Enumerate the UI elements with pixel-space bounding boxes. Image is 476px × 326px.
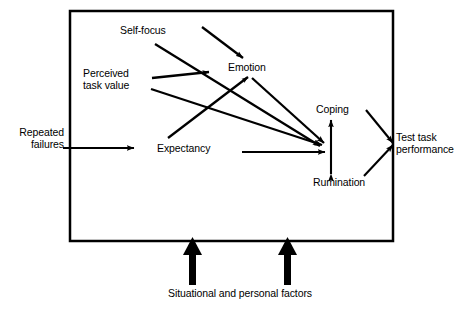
node-label-emotion: Emotion bbox=[228, 62, 286, 74]
node-label-repeated-failures: Repeated failures bbox=[2, 127, 64, 150]
edge-rumination-to-test-task-performance bbox=[364, 145, 393, 176]
node-label-situational-and-personal-factors: Situational and personal factors bbox=[130, 288, 350, 300]
node-label-coping: Coping bbox=[316, 104, 360, 116]
edge-into-emotion bbox=[202, 27, 243, 58]
system-boundary-box bbox=[70, 11, 393, 241]
edge-coping-to-test-task-performance bbox=[366, 110, 393, 143]
edge-situational-factors-left-arrow bbox=[183, 237, 202, 285]
edge-situational-factors-right-arrow bbox=[278, 237, 297, 285]
node-label-expectancy: Expectancy bbox=[157, 143, 229, 155]
edge-expectancy-to-emotion bbox=[168, 77, 248, 138]
diagram-canvas bbox=[0, 0, 476, 326]
node-label-test-task-performance: Test task performance bbox=[396, 132, 476, 155]
node-label-self-focus: Self-focus bbox=[120, 25, 190, 37]
model-diagram-figure: Repeated failures Self-focus Perceived t… bbox=[0, 0, 476, 326]
node-label-perceived-task-value: Perceived task value bbox=[83, 68, 153, 91]
edge-perceived-task-value-to-emotion bbox=[152, 72, 209, 78]
edge-self-focus-to-junction bbox=[155, 44, 320, 146]
node-label-rumination: Rumination bbox=[313, 177, 375, 189]
